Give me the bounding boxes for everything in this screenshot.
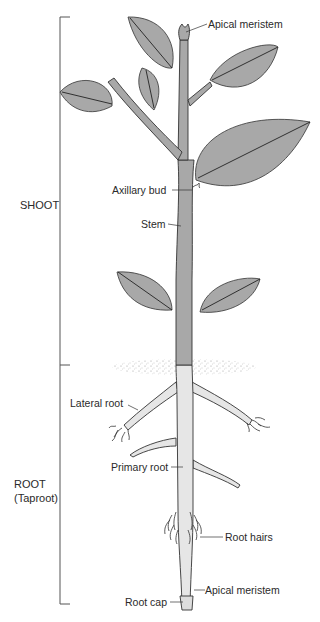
label-primary-root: Primary root xyxy=(111,461,168,473)
label-stem: Stem xyxy=(141,218,166,230)
root-bracket xyxy=(60,365,70,604)
label-apical-meristem-shoot: Apical meristem xyxy=(208,18,283,30)
plant-illustration xyxy=(0,0,320,622)
root-section-label: ROOT xyxy=(14,478,46,491)
root-system xyxy=(124,365,252,610)
leaf-big-right xyxy=(196,119,310,185)
leader-lines xyxy=(128,24,223,602)
label-apical-meristem-root: Apical meristem xyxy=(205,584,280,596)
label-root-hairs: Root hairs xyxy=(225,531,273,543)
leaf-upper-right xyxy=(210,45,278,87)
shoot-section-label: SHOOT xyxy=(20,199,59,212)
plant-anatomy-diagram: SHOOT ROOT (Taproot) Apical meristem Axi… xyxy=(0,0,320,622)
label-lateral-root: Lateral root xyxy=(70,397,123,409)
taproot-section-label: (Taproot) xyxy=(14,492,58,505)
shoot-bracket xyxy=(60,17,70,365)
label-root-cap: Root cap xyxy=(125,596,167,608)
label-axillary-bud: Axillary bud xyxy=(112,184,166,196)
axillary-bud xyxy=(193,183,200,188)
leaf-left-mid xyxy=(139,68,159,110)
leaf-far-left xyxy=(60,80,112,111)
